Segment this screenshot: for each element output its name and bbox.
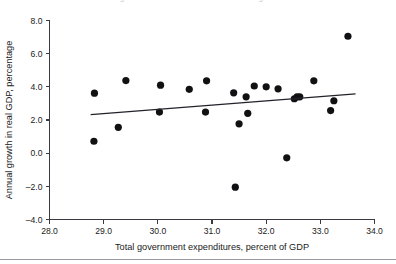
x-axis-label: Total government expenditures, percent o… — [115, 242, 309, 252]
data-point — [344, 33, 351, 40]
x-axis-ticks: 28.029.030.031.032.033.034.0 — [41, 220, 383, 236]
scatter-plot-figure: Figure: Government size and economic gro… — [0, 0, 396, 264]
data-point — [296, 93, 303, 100]
data-point — [115, 124, 122, 131]
y-tick-label: 8.0 — [31, 16, 43, 26]
data-point — [327, 107, 334, 114]
plot-canvas: 8.06.04.02.00.0–2.0–4.0 28.029.030.031.0… — [0, 0, 396, 264]
y-tick-label: –4.0 — [26, 215, 43, 225]
data-point — [90, 138, 97, 145]
data-point — [244, 110, 251, 117]
data-point — [235, 120, 242, 127]
y-axis-label: Annual growth in real GDP, percentage — [4, 41, 14, 200]
data-point — [243, 93, 250, 100]
y-tick-label: –2.0 — [26, 182, 43, 192]
y-tick-label: 6.0 — [31, 49, 43, 59]
data-point — [330, 97, 337, 104]
data-point — [263, 83, 270, 90]
data-point — [310, 77, 317, 84]
data-point — [232, 184, 239, 191]
y-tick-label: 2.0 — [31, 115, 43, 125]
data-point — [186, 86, 193, 93]
y-tick-label: 4.0 — [31, 82, 43, 92]
data-point — [274, 85, 281, 92]
x-tick-label: 32.0 — [258, 226, 275, 236]
x-tick-label: 30.0 — [149, 226, 166, 236]
trend-line — [91, 94, 356, 115]
data-point — [91, 90, 98, 97]
data-point — [202, 108, 209, 115]
x-tick-label: 34.0 — [366, 226, 383, 236]
y-tick-label: 0.0 — [31, 148, 43, 158]
data-point — [122, 77, 129, 84]
data-point — [251, 82, 258, 89]
axis-lines — [50, 21, 375, 220]
x-tick-label: 31.0 — [204, 226, 221, 236]
y-axis-ticks: 8.06.04.02.00.0–2.0–4.0 — [26, 16, 50, 225]
x-tick-label: 29.0 — [95, 226, 112, 236]
data-point — [230, 89, 237, 96]
data-point — [157, 82, 164, 89]
data-point — [283, 154, 290, 161]
cut-off-title: Figure: Government size and economic gro… — [0, 0, 396, 2]
x-tick-label: 28.0 — [41, 226, 58, 236]
data-point — [203, 77, 210, 84]
x-tick-label: 33.0 — [312, 226, 329, 236]
